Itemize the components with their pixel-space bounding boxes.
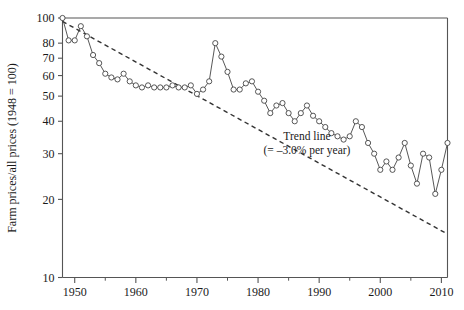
data-point	[353, 119, 358, 124]
data-point	[90, 52, 95, 57]
y-tick-label: 20	[43, 193, 55, 207]
y-axis-ticks	[58, 18, 63, 278]
data-point	[243, 81, 248, 86]
trend-line-series	[63, 21, 448, 234]
data-line-series	[63, 18, 448, 194]
data-point	[286, 111, 291, 116]
farm-prices-line-chart: 1008070605040302010 19501960197019801990…	[0, 0, 464, 310]
data-point	[200, 87, 205, 92]
data-point	[274, 103, 279, 108]
y-tick-label: 40	[43, 114, 55, 128]
data-point	[121, 71, 126, 76]
data-point	[341, 137, 346, 142]
data-point	[103, 71, 108, 76]
data-point	[139, 85, 144, 90]
data-point	[219, 54, 224, 59]
data-point	[84, 34, 89, 39]
data-point	[109, 75, 114, 80]
x-tick-label: 1970	[185, 285, 209, 299]
data-point	[317, 119, 322, 124]
data-point	[445, 140, 450, 145]
data-point	[268, 111, 273, 116]
data-point	[78, 24, 83, 29]
data-point	[310, 113, 315, 118]
data-point	[280, 100, 285, 105]
y-tick-label: 10	[43, 271, 55, 285]
data-point	[347, 134, 352, 139]
data-point	[133, 83, 138, 88]
data-point	[420, 151, 425, 156]
data-point	[298, 111, 303, 116]
data-point	[384, 159, 389, 164]
y-axis-title: Farm prices/all prices (1948 = 100)	[5, 63, 19, 233]
data-point	[60, 15, 65, 20]
data-point	[170, 83, 175, 88]
x-tick-label: 1960	[124, 285, 148, 299]
x-tick-label: 2010	[429, 285, 453, 299]
data-point	[66, 38, 71, 43]
data-point	[414, 181, 419, 186]
data-point-markers	[60, 15, 450, 196]
data-point	[231, 87, 236, 92]
x-tick-label: 1950	[63, 285, 87, 299]
data-point	[335, 134, 340, 139]
data-point	[182, 85, 187, 90]
data-point	[439, 167, 444, 172]
data-point	[72, 38, 77, 43]
y-axis-tick-labels: 1008070605040302010	[37, 11, 55, 285]
data-point	[207, 79, 212, 84]
data-point	[145, 83, 150, 88]
x-axis-tick-labels: 1950196019701980199020002010	[63, 285, 454, 299]
x-tick-label: 1980	[246, 285, 270, 299]
data-point	[194, 91, 199, 96]
data-point	[402, 140, 407, 145]
data-point	[378, 167, 383, 172]
data-point	[372, 151, 377, 156]
y-tick-label: 70	[43, 51, 55, 65]
y-tick-label: 60	[43, 69, 55, 83]
data-point	[158, 85, 163, 90]
y-tick-label: 30	[43, 147, 55, 161]
data-point	[152, 85, 157, 90]
data-point	[188, 83, 193, 88]
plot-frame	[63, 18, 448, 278]
data-point	[304, 103, 309, 108]
y-tick-label: 80	[43, 36, 55, 50]
data-point	[292, 119, 297, 124]
data-point	[164, 85, 169, 90]
trend-line-annotation-line1: Trend line	[283, 130, 330, 142]
data-point	[127, 79, 132, 84]
data-point	[176, 85, 181, 90]
data-point	[213, 41, 218, 46]
data-point	[255, 89, 260, 94]
y-tick-label: 100	[37, 11, 55, 25]
data-point	[249, 79, 254, 84]
data-point	[390, 167, 395, 172]
data-point	[225, 69, 230, 74]
data-point	[97, 61, 102, 66]
x-tick-label: 1990	[307, 285, 331, 299]
data-point	[115, 77, 120, 82]
y-tick-label: 50	[43, 89, 55, 103]
data-point	[359, 124, 364, 129]
x-tick-label: 2000	[368, 285, 392, 299]
x-axis-ticks	[75, 278, 442, 284]
data-point	[237, 87, 242, 92]
chart-figure: 1008070605040302010 19501960197019801990…	[0, 0, 464, 310]
data-point	[396, 155, 401, 160]
trend-line-annotation-line2: (= –3.0% per year)	[263, 144, 350, 157]
data-point	[262, 98, 267, 103]
data-point	[365, 140, 370, 145]
data-point	[408, 163, 413, 168]
data-point	[433, 191, 438, 196]
data-point	[427, 155, 432, 160]
